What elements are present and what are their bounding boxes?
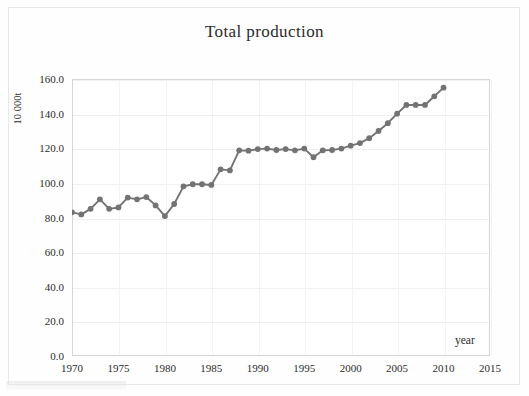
x-tick-label: 2010 bbox=[433, 362, 455, 374]
data-point-marker bbox=[394, 111, 400, 117]
data-point-marker bbox=[236, 147, 242, 153]
data-point-marker bbox=[125, 195, 131, 201]
data-point-marker bbox=[320, 147, 326, 153]
data-point-marker bbox=[413, 102, 419, 108]
data-point-marker bbox=[283, 146, 289, 152]
x-tick-label: 1985 bbox=[200, 362, 222, 374]
data-point-marker bbox=[329, 147, 335, 153]
y-tick-label: 40.0 bbox=[0, 281, 64, 293]
data-point-marker bbox=[88, 206, 94, 212]
data-point-marker bbox=[366, 135, 372, 141]
x-tick-label: 1975 bbox=[107, 362, 129, 374]
data-point-marker bbox=[78, 211, 84, 217]
y-tick-label: 140.0 bbox=[0, 108, 64, 120]
line-chart-svg bbox=[72, 79, 490, 356]
y-tick-label: 80.0 bbox=[0, 212, 64, 224]
data-point-marker bbox=[72, 209, 75, 215]
data-point-marker bbox=[441, 85, 447, 91]
y-tick-label: 20.0 bbox=[0, 315, 64, 327]
data-point-marker bbox=[106, 206, 112, 212]
x-tick-label: 1980 bbox=[154, 362, 176, 374]
data-point-marker bbox=[97, 196, 103, 202]
x-tick-label: 2000 bbox=[340, 362, 362, 374]
chart-page: Total production 10 000t 0.020.040.060.0… bbox=[0, 0, 529, 396]
data-point-marker bbox=[171, 201, 177, 207]
data-point-marker bbox=[181, 183, 187, 189]
data-point-marker bbox=[264, 146, 270, 152]
y-tick-label: 0.0 bbox=[0, 350, 64, 362]
data-point-marker bbox=[208, 182, 214, 188]
data-point-marker bbox=[422, 102, 428, 108]
data-point-marker bbox=[338, 146, 344, 152]
data-point-marker bbox=[162, 213, 168, 219]
scan-artifact bbox=[6, 381, 126, 391]
data-point-marker bbox=[348, 143, 354, 149]
data-point-marker bbox=[311, 154, 317, 160]
data-point-marker bbox=[376, 128, 382, 134]
data-point-marker bbox=[301, 146, 307, 152]
x-tick-label: 1970 bbox=[61, 362, 83, 374]
data-point-marker bbox=[143, 194, 149, 200]
y-tick-label: 160.0 bbox=[0, 73, 64, 85]
data-point-marker bbox=[292, 147, 298, 153]
x-axis-tick-labels: 1970197519801985199019952000200520102015 bbox=[0, 362, 529, 380]
y-tick-label: 60.0 bbox=[0, 246, 64, 258]
data-point-marker bbox=[218, 166, 224, 172]
y-tick-label: 100.0 bbox=[0, 177, 64, 189]
x-tick-label: 2005 bbox=[386, 362, 408, 374]
data-point-marker bbox=[153, 202, 159, 208]
data-point-marker bbox=[385, 120, 391, 126]
data-point-marker bbox=[134, 196, 140, 202]
data-point-marker bbox=[404, 102, 410, 108]
data-point-marker bbox=[116, 205, 122, 211]
x-tick-label: 2015 bbox=[479, 362, 501, 374]
data-point-marker bbox=[227, 168, 233, 174]
data-point-marker bbox=[255, 146, 261, 152]
data-point-marker bbox=[273, 147, 279, 153]
data-point-marker bbox=[357, 140, 363, 146]
data-point-marker bbox=[246, 148, 252, 154]
series-canvas bbox=[72, 79, 490, 356]
gridline-vertical bbox=[491, 80, 492, 355]
x-tick-label: 1995 bbox=[293, 362, 315, 374]
data-point-marker bbox=[199, 181, 205, 187]
x-axis-label: year bbox=[455, 334, 475, 346]
x-tick-label: 1990 bbox=[247, 362, 269, 374]
data-point-marker bbox=[190, 181, 196, 187]
y-tick-label: 120.0 bbox=[0, 142, 64, 154]
data-point-marker bbox=[431, 93, 437, 99]
chart-title: Total production bbox=[0, 22, 529, 42]
